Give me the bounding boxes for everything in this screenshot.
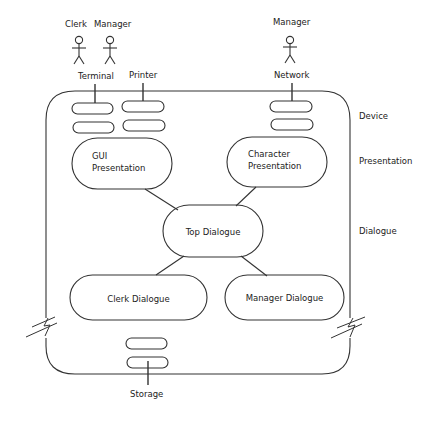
break-marker-right-icon xyxy=(331,317,365,338)
device-label-storage: Storage xyxy=(130,390,163,399)
gui-presentation-line2: Presentation xyxy=(92,162,145,174)
terminal-port-1 xyxy=(72,103,113,114)
device-label-printer: Printer xyxy=(129,71,157,80)
gui-presentation-label: GUI Presentation xyxy=(92,150,145,175)
actor-label-clerk: Clerk xyxy=(65,20,87,29)
manager-network-actor-icon xyxy=(283,36,297,63)
link-gui-to-top xyxy=(145,189,178,210)
storage-port-1 xyxy=(126,338,167,349)
link-top-to-clerk xyxy=(156,256,184,275)
link-top-to-manager xyxy=(241,256,267,276)
terminal-port-2 xyxy=(73,122,114,133)
manager-dialogue-label: Manager Dialogue xyxy=(225,292,344,304)
character-presentation-line2: Presentation xyxy=(248,160,301,172)
break-marker-left-icon xyxy=(26,317,57,338)
actor-label-manager-network: Manager xyxy=(273,18,310,27)
character-presentation-line1: Character xyxy=(248,148,301,160)
clerk-actor-icon xyxy=(72,36,86,64)
device-label-network: Network xyxy=(274,71,310,80)
actor-label-manager: Manager xyxy=(94,20,131,29)
network-port-2 xyxy=(271,119,313,130)
clerk-dialogue-label: Clerk Dialogue xyxy=(70,293,207,305)
printer-port-2 xyxy=(123,120,165,131)
network-port-1 xyxy=(270,101,312,112)
top-dialogue-label: Top Dialogue xyxy=(163,226,263,238)
layer-label-device: Device xyxy=(359,112,388,121)
device-label-terminal: Terminal xyxy=(78,72,114,81)
gui-presentation-line1: GUI xyxy=(92,150,145,162)
link-character-to-top xyxy=(236,187,256,206)
diagram-canvas xyxy=(0,0,434,424)
printer-port-1 xyxy=(122,101,164,112)
manager-actor-icon xyxy=(103,36,117,64)
layer-label-dialogue: Dialogue xyxy=(359,227,397,236)
layer-label-presentation: Presentation xyxy=(359,157,412,166)
character-presentation-label: Character Presentation xyxy=(248,148,301,173)
